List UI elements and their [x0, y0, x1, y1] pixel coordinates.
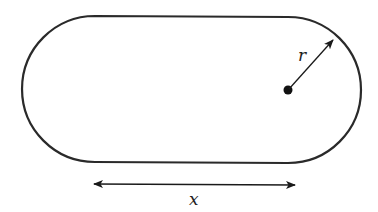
stadium-outline — [22, 16, 361, 163]
stadium-diagram: r x — [0, 0, 378, 212]
radius-arrow — [289, 40, 333, 89]
length-arrow — [94, 184, 295, 185]
length-label: x — [189, 189, 199, 209]
radius-label: r — [298, 45, 307, 65]
